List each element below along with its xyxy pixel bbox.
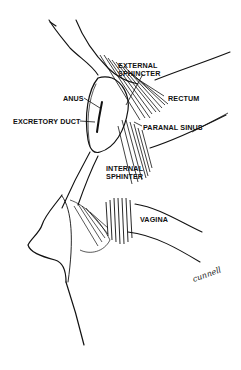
label-internal-sphincter: INTERNAL SPHINTER: [106, 165, 143, 181]
anatomy-drawing: [0, 0, 241, 370]
illustration: EXTERNAL SPHINCTER RECTUM ANUS EXCRETORY…: [0, 0, 241, 370]
label-paranal-sinus: PARANAL SINUS: [143, 124, 203, 132]
label-excretory-duct: EXCRETORY DUCT: [13, 118, 81, 126]
label-anus: ANUS: [63, 95, 84, 103]
label-external-sphincter: EXTERNAL SPHINCTER: [118, 62, 160, 78]
label-vagina: VAGINA: [140, 216, 168, 224]
label-rectum: RECTUM: [168, 95, 199, 103]
